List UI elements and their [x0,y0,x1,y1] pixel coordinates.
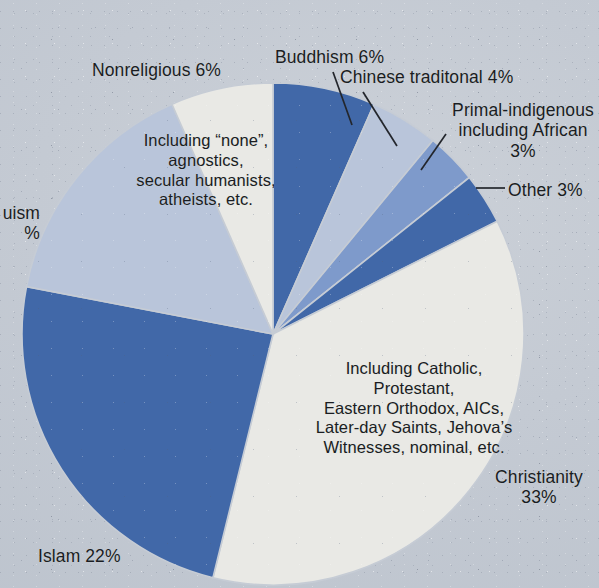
slice-label-other: Other 3% [508,180,583,200]
slice-label-buddhism: Buddhism 6% [275,47,384,67]
slice-label-primal-indigenous: Primal-indigenous including African 3% [447,100,599,161]
slice-label-hinduism: uism % [0,203,40,244]
slice-label-islam: Islam 22% [38,546,121,566]
slice-label-christianity: Christianity 33% [479,467,599,508]
pie-chart-figure: Nonreligious 6% Including “none”, agnost… [0,0,599,588]
slice-label-nonreligious: Nonreligious 6% [92,60,221,80]
slice-annotation-nonreligious: Including “none”, agnostics, secular hum… [118,131,294,210]
slice-annotation-christianity: Including Catholic, Protestant, Eastern … [307,359,521,458]
slice-label-chinese-traditional: Chinese traditonal 4% [340,67,513,87]
